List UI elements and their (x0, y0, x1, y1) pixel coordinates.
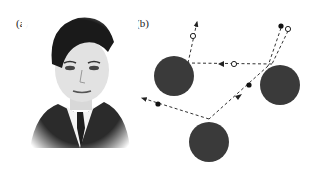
path-open (188, 22, 288, 64)
filled-marker (155, 101, 160, 106)
scatterer-right (260, 65, 300, 105)
filled-marker (246, 82, 251, 87)
filled-marker (278, 23, 283, 28)
scattering-diagram (0, 0, 316, 174)
scatterer-bottom (189, 122, 229, 162)
open-marker (231, 61, 236, 66)
arrowhead-left (218, 61, 224, 67)
arrowhead-down-left (235, 94, 242, 100)
open-marker (285, 26, 290, 31)
open-marker (190, 33, 195, 38)
